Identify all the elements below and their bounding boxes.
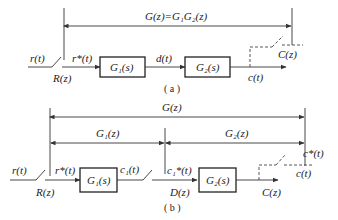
sampled-input-label: r*(t) bbox=[72, 52, 93, 65]
overall-transfer-label: G(z)=G₁G₂(z) bbox=[145, 10, 207, 23]
block-g1-label: G₁(s) bbox=[87, 174, 111, 187]
fictitious-sampler-switch bbox=[272, 36, 283, 47]
intermediate-z-label: D(z) bbox=[169, 186, 190, 199]
output-z-label: C(z) bbox=[262, 186, 281, 199]
input-sampler-switch bbox=[36, 170, 45, 180]
fictitious-sampler-switch bbox=[276, 155, 285, 165]
sampled-system-diagram: G(z)=G₁G₂(z) r(t) R(z) r*(t) G₁(s) d(t) … bbox=[0, 0, 338, 220]
input-signal-label: r(t) bbox=[30, 52, 45, 65]
output-signal-label: c(t) bbox=[248, 71, 264, 84]
sampled-output-label: c*(t) bbox=[303, 147, 324, 160]
block-g2-label: G₂(s) bbox=[196, 61, 220, 74]
input-sampler-switch bbox=[52, 57, 61, 67]
caption-b: ( b ) bbox=[164, 202, 181, 214]
sampled-input-label: r*(t) bbox=[55, 164, 76, 177]
intermediate-signal-label: c₁(t) bbox=[120, 163, 139, 176]
output-signal-label: c(t) bbox=[296, 167, 312, 180]
intermediate-signal-label: d(t) bbox=[156, 52, 172, 65]
fictitious-sampler-path bbox=[259, 165, 276, 180]
input-z-label: R(z) bbox=[35, 186, 55, 199]
caption-a: ( a ) bbox=[164, 83, 180, 95]
transfer2-label: G₂(z) bbox=[225, 127, 249, 140]
diagram-canvas: G(z)=G₁G₂(z) r(t) R(z) r*(t) G₁(s) d(t) … bbox=[0, 0, 338, 220]
overall-transfer-label: G(z) bbox=[162, 101, 182, 114]
block-g2-label: G₂(s) bbox=[206, 174, 230, 187]
intermediate-sampler-switch bbox=[143, 170, 152, 180]
diagram-b: G(z) G₁(z) G₂(z) r(t) R(z) r*(t) G₁(s) c… bbox=[10, 101, 324, 214]
diagram-a: G(z)=G₁G₂(z) r(t) R(z) r*(t) G₁(s) d(t) … bbox=[28, 8, 303, 95]
input-signal-label: r(t) bbox=[12, 164, 27, 177]
fictitious-sampler-path bbox=[250, 47, 272, 67]
output-z-label: C(z) bbox=[278, 48, 297, 61]
sampled-intermediate-label: c₁*(t) bbox=[167, 164, 192, 177]
input-z-label: R(z) bbox=[52, 72, 72, 85]
block-g1-label: G₁(s) bbox=[110, 61, 134, 74]
transfer1-label: G₁(z) bbox=[96, 127, 120, 140]
